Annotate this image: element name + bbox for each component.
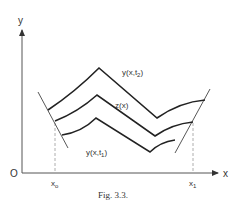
x-axis-label: x [223,168,228,179]
x0-label: xo [51,179,59,189]
curve-middle-label: z(x) [115,101,129,110]
curve-lower-label: y(x,t1) [86,148,107,158]
origin-label: O [10,168,18,179]
x1-label: x1 [189,179,197,189]
left-boundary-line [38,92,68,148]
curve-lower [62,118,175,152]
curve-upper-label: y(x,t2) [122,68,143,78]
figure-caption: Fig. 3.3. [98,190,128,200]
figure-canvas: y x O xo x1 y(x,t2) z(x) y(x,t1) Fig. 3.… [0,0,239,207]
y-axis-label: y [18,15,23,26]
right-boundary-line [175,89,210,153]
